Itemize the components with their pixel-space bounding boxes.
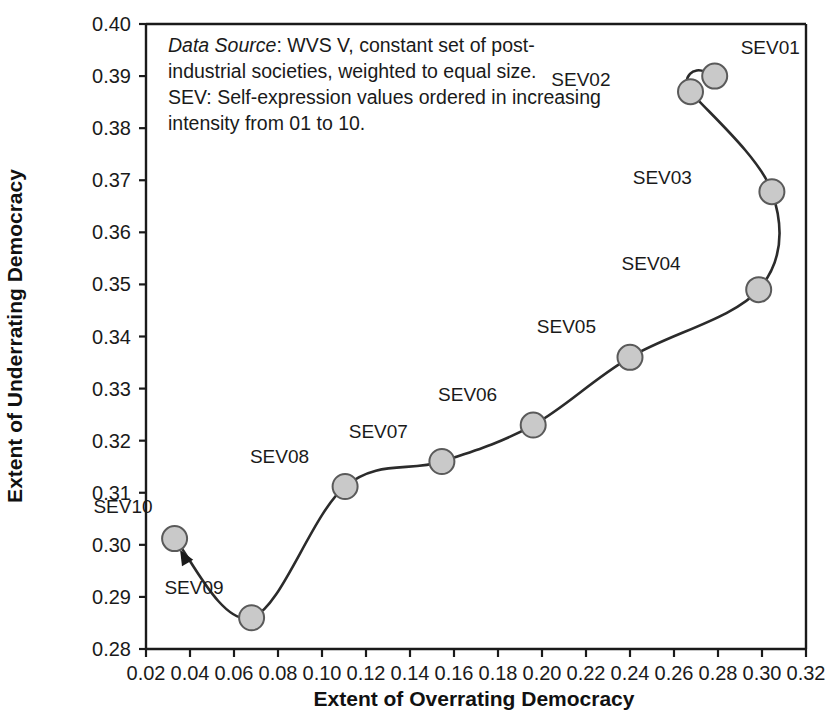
y-axis-title: Extent of Underrating Democracy [3,169,26,503]
y-tick-label: 0.30 [92,534,131,556]
x-tick-label: 0.16 [435,662,474,684]
x-tick-label: 0.32 [787,662,826,684]
y-tick-label: 0.39 [92,65,131,87]
annotation-line: intensity from 01 to 10. [168,112,365,134]
annotation-line: industrial societies, weighted to equal … [168,60,537,82]
y-tick-label: 0.28 [92,638,131,660]
data-point-label: SEV03 [633,167,692,188]
data-point-marker[interactable] [429,449,454,474]
y-tick-label: 0.34 [92,326,131,348]
data-point-marker[interactable] [618,345,643,370]
y-tick-label: 0.32 [92,430,131,452]
data-point-label: SEV08 [250,446,309,467]
x-tick-label: 0.22 [567,662,606,684]
x-tick-label: 0.12 [347,662,386,684]
y-tick-label: 0.33 [92,378,131,400]
y-tick-label: 0.29 [92,586,131,608]
chart-figure: 0.280.290.300.310.320.330.340.350.360.37… [0,0,831,722]
data-point-marker[interactable] [162,526,187,551]
data-point-marker[interactable] [239,605,264,630]
y-tick-label: 0.35 [92,273,131,295]
data-point-marker[interactable] [333,474,358,499]
data-point-label: SEV01 [741,37,800,58]
data-point-label: SEV10 [93,496,152,517]
x-tick-label: 0.18 [479,662,518,684]
x-tick-label: 0.24 [611,662,650,684]
annotation-emphasis: Data Source [168,34,277,56]
y-tick-label: 0.38 [92,117,131,139]
x-axis-title: Extent of Overrating Democracy [314,687,635,710]
data-point-marker[interactable] [678,79,703,104]
x-tick-label: 0.02 [127,662,166,684]
x-tick-label: 0.04 [171,662,210,684]
x-tick-label: 0.08 [259,662,298,684]
annotation-line: Data Source: WVS V, constant set of post… [168,34,535,56]
annotation-line: SEV: Self-expression values ordered in i… [168,86,601,108]
scatter-chart: 0.280.290.300.310.320.330.340.350.360.37… [0,0,831,722]
data-point-label: SEV06 [438,384,497,405]
x-tick-label: 0.10 [303,662,342,684]
y-tick-label: 0.36 [92,221,131,243]
x-tick-label: 0.30 [743,662,782,684]
x-tick-label: 0.14 [391,662,430,684]
x-tick-label: 0.20 [523,662,562,684]
data-point-label: SEV05 [537,316,596,337]
data-point-label: SEV07 [349,421,408,442]
y-tick-label: 0.40 [92,13,131,35]
x-tick-label: 0.28 [699,662,738,684]
data-point-label: SEV04 [622,253,682,274]
data-point-label: SEV09 [164,577,223,598]
y-tick-label: 0.37 [92,169,131,191]
data-point-label: SEV02 [551,69,610,90]
data-point-marker[interactable] [746,277,771,302]
data-point-marker[interactable] [521,413,546,438]
data-point-marker[interactable] [702,64,727,89]
data-point-marker[interactable] [759,179,784,204]
x-tick-label: 0.06 [215,662,254,684]
x-tick-label: 0.26 [655,662,694,684]
